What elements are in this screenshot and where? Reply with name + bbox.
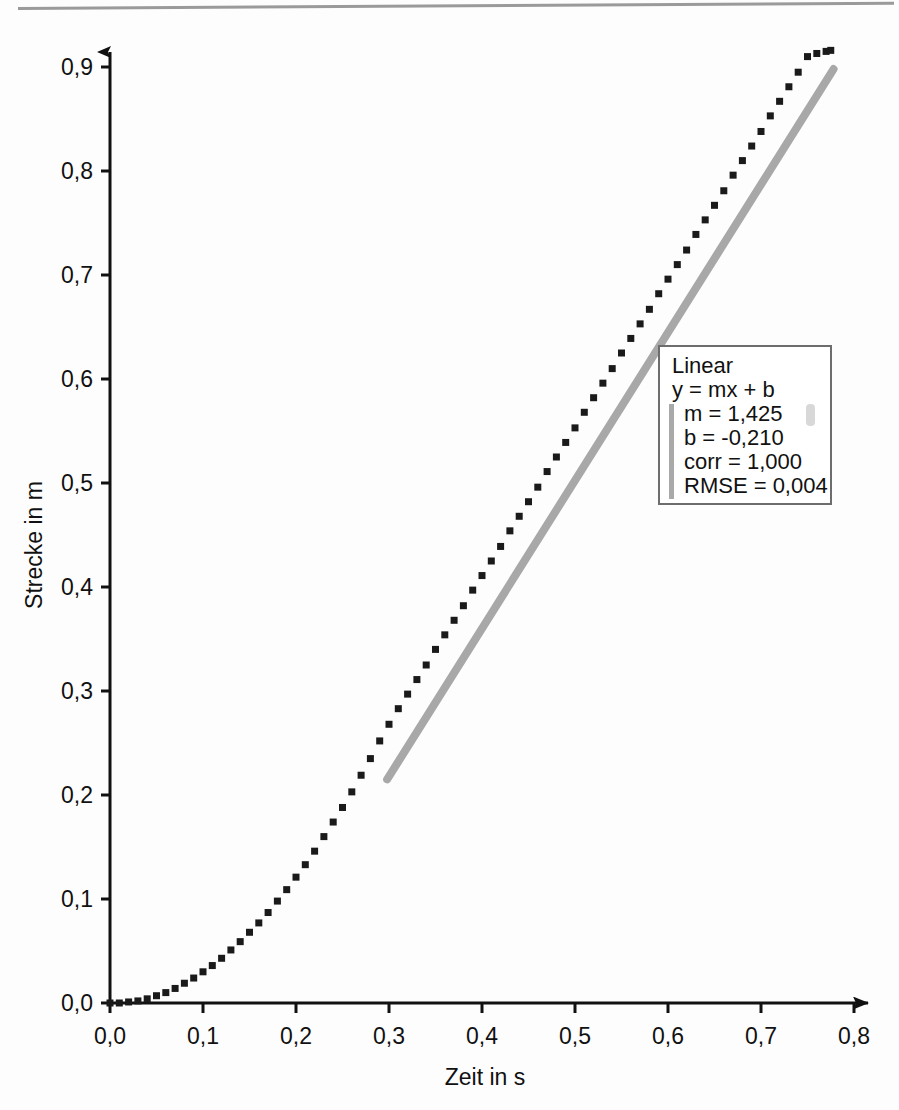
y-tick-labels: 0,0 0,1 0,2 0,3 0,4 0,5 0,6 0,7 0,8 0,9 bbox=[61, 54, 93, 1016]
x-tick-label: 0,6 bbox=[652, 1023, 684, 1049]
data-point-marker bbox=[386, 721, 393, 728]
data-point-marker bbox=[590, 394, 597, 401]
data-point-marker bbox=[479, 572, 486, 579]
data-point-marker bbox=[460, 602, 467, 609]
legend-title: Linear bbox=[672, 354, 830, 378]
data-point-marker bbox=[813, 50, 820, 57]
data-point-marker bbox=[730, 172, 737, 179]
data-point-marker bbox=[293, 874, 300, 881]
data-point-marker bbox=[711, 202, 718, 209]
legend-param-rmse: RMSE = 0,004 bbox=[672, 474, 830, 498]
data-point-marker bbox=[144, 995, 151, 1002]
data-point-marker bbox=[627, 335, 634, 342]
data-point-marker bbox=[497, 543, 504, 550]
y-axis-title: Strecke in m bbox=[21, 481, 47, 609]
x-tick-label: 0,8 bbox=[838, 1023, 870, 1049]
data-point-marker bbox=[795, 69, 802, 76]
data-point-marker bbox=[692, 231, 699, 238]
legend-param-intercept: b = -0,210 bbox=[672, 426, 830, 450]
data-point-marker bbox=[162, 989, 169, 996]
y-tick-label: 0,6 bbox=[61, 366, 93, 392]
data-point-marker bbox=[516, 513, 523, 520]
data-point-marker bbox=[441, 631, 448, 638]
data-point-marker bbox=[348, 788, 355, 795]
data-point-marker bbox=[572, 424, 579, 431]
data-point-marker bbox=[451, 617, 458, 624]
x-tick-label: 0,4 bbox=[466, 1023, 498, 1049]
y-tick-label: 0,1 bbox=[61, 886, 93, 912]
data-point-marker bbox=[302, 861, 309, 868]
data-point-marker bbox=[367, 755, 374, 762]
data-point-marker bbox=[432, 646, 439, 653]
data-point-marker bbox=[413, 676, 420, 683]
data-point-marker bbox=[237, 938, 244, 945]
y-tick-label: 0,9 bbox=[61, 54, 93, 80]
data-point-marker bbox=[758, 128, 765, 135]
data-point-marker bbox=[395, 705, 402, 712]
data-point-marker bbox=[827, 47, 834, 54]
data-point-marker bbox=[227, 946, 234, 953]
legend-param-correlation: corr = 1,000 bbox=[672, 450, 830, 474]
data-point-marker bbox=[209, 962, 216, 969]
y-tick-label: 0,4 bbox=[61, 574, 93, 600]
data-point-marker bbox=[311, 848, 318, 855]
data-point-marker bbox=[739, 157, 746, 164]
data-point-marker bbox=[525, 498, 532, 505]
data-point-marker bbox=[674, 261, 681, 268]
data-point-marker bbox=[534, 484, 541, 491]
data-point-marker bbox=[553, 454, 560, 461]
data-point-marker bbox=[804, 53, 811, 60]
data-point-marker bbox=[506, 527, 513, 534]
data-point-marker bbox=[116, 1000, 123, 1007]
data-point-marker bbox=[702, 216, 709, 223]
data-point-marker bbox=[469, 587, 476, 594]
data-point-marker bbox=[320, 833, 327, 840]
scan-artifact-smudge bbox=[806, 404, 815, 426]
legend-gray-bar bbox=[669, 404, 674, 499]
chart-page: 0,0 0,1 0,2 0,3 0,4 0,5 0,6 0,7 0,8 0,9 … bbox=[0, 0, 899, 1110]
data-point-marker bbox=[181, 980, 188, 987]
data-point-marker bbox=[265, 909, 272, 916]
data-point-marker bbox=[767, 112, 774, 119]
data-point-marker bbox=[637, 320, 644, 327]
x-tick-label: 0,1 bbox=[187, 1023, 219, 1049]
data-point-marker bbox=[544, 468, 551, 475]
data-point-marker bbox=[246, 929, 253, 936]
data-point-marker bbox=[562, 439, 569, 446]
y-tick-label: 0,8 bbox=[61, 158, 93, 184]
y-tick-label: 0,3 bbox=[61, 678, 93, 704]
data-point-marker bbox=[599, 380, 606, 387]
data-point-marker bbox=[423, 662, 430, 669]
plot-area: 0,0 0,1 0,2 0,3 0,4 0,5 0,6 0,7 0,8 0,9 … bbox=[0, 0, 899, 1110]
x-tick-label: 0,0 bbox=[94, 1023, 126, 1049]
data-point-marker bbox=[785, 83, 792, 90]
data-point-marker bbox=[107, 1000, 114, 1007]
data-point-marker bbox=[655, 290, 662, 297]
x-tick-label: 0,7 bbox=[745, 1023, 777, 1049]
data-point-marker bbox=[274, 898, 281, 905]
data-point-marker bbox=[488, 558, 495, 565]
data-point-marker bbox=[776, 98, 783, 105]
y-tick-label: 0,0 bbox=[61, 990, 93, 1016]
data-point-marker bbox=[172, 985, 179, 992]
legend-equation: y = mx + b bbox=[672, 378, 830, 402]
y-tick-label: 0,7 bbox=[61, 262, 93, 288]
data-point-marker bbox=[255, 919, 262, 926]
data-point-marker bbox=[125, 998, 132, 1005]
y-tick-label: 0,5 bbox=[61, 470, 93, 496]
data-point-marker bbox=[153, 992, 160, 999]
data-point-marker bbox=[404, 691, 411, 698]
fit-result-legend: Linear y = mx + b m = 1,425 b = -0,210 c… bbox=[658, 345, 832, 505]
data-point-marker bbox=[339, 804, 346, 811]
x-tick-labels: 0,0 0,1 0,2 0,3 0,4 0,5 0,6 0,7 0,8 bbox=[94, 1023, 870, 1049]
x-tick-label: 0,3 bbox=[373, 1023, 405, 1049]
data-point-marker bbox=[330, 819, 337, 826]
data-point-marker bbox=[376, 737, 383, 744]
data-point-marker bbox=[683, 247, 690, 254]
x-tick-label: 0,2 bbox=[280, 1023, 312, 1049]
data-point-marker bbox=[665, 276, 672, 283]
x-tick-label: 0,5 bbox=[559, 1023, 591, 1049]
data-point-marker bbox=[190, 975, 197, 982]
x-axis-title: Zeit in s bbox=[445, 1064, 526, 1090]
data-point-marker bbox=[646, 306, 653, 313]
